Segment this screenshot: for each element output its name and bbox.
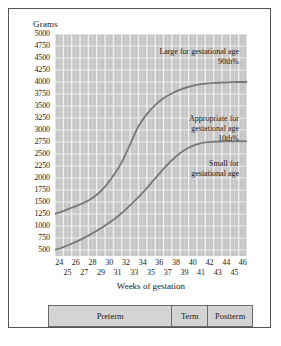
y-axis-tick-label: 3000 (34, 126, 50, 134)
annotation-line: Small for (124, 159, 239, 169)
y-axis-tick-label: 750 (38, 234, 50, 242)
y-axis-tick-label: 1000 (34, 222, 50, 230)
y-axis: 5000475045004250400037503500325030002750… (9, 34, 53, 256)
x-axis-tick-label: 31 (114, 268, 122, 277)
gestation-period-bar: PretermTermPostterm (48, 305, 253, 327)
annotation-line: 90th% (104, 57, 239, 67)
y-axis-tick-label: 2250 (34, 162, 50, 170)
x-axis-tick-label: 45 (230, 268, 238, 277)
x-axis-tick-label: 38 (172, 258, 180, 267)
x-axis-tick-label: 26 (72, 258, 80, 267)
y-axis-tick-label: 4750 (34, 42, 50, 50)
x-axis-tick-label: 42 (205, 258, 213, 267)
y-axis-tick-label: 1250 (34, 210, 50, 218)
x-axis-tick-label: 29 (97, 268, 105, 277)
annotation-large-for-gestational-age: Large for gestational age90th% (104, 47, 239, 67)
annotation-line: gestational age (119, 124, 239, 134)
y-axis-tick-label: 3250 (34, 114, 50, 122)
x-axis-tick-label: 24 (55, 258, 63, 267)
period-segment-preterm: Preterm (49, 306, 171, 326)
annotation-line: Large for gestational age (104, 47, 239, 57)
annotation-line: 10th% (119, 134, 239, 144)
y-axis-tick-label: 2000 (34, 174, 50, 182)
y-axis-tick-label: 500 (38, 246, 50, 254)
y-axis-tick-label: 4500 (34, 54, 50, 62)
chart-frame: Grams 5000475045004250400037503500325030… (8, 8, 271, 328)
annotation-small-for-gestational-age: Small forgestational age (124, 159, 239, 179)
x-axis-tick-label: 28 (89, 258, 97, 267)
y-axis-tick-label: 3750 (34, 90, 50, 98)
x-axis-tick-label: 32 (122, 258, 130, 267)
x-axis-tick-label: 39 (180, 268, 188, 277)
y-axis-tick-label: 4250 (34, 66, 50, 74)
y-axis-tick-label: 3500 (34, 102, 50, 110)
x-axis-tick-label: 30 (105, 258, 113, 267)
period-segment-term: Term (171, 306, 207, 326)
y-axis-title: Grams (33, 19, 58, 29)
annotation-line: Appropriate for (119, 114, 239, 124)
x-axis-tick-label: 44 (222, 258, 230, 267)
x-axis-tick-label: 41 (197, 268, 205, 277)
x-axis-tick-label: 36 (155, 258, 163, 267)
y-axis-tick-label: 4000 (34, 78, 50, 86)
x-axis-tick-label: 33 (130, 268, 138, 277)
y-axis-tick-label: 5000 (34, 30, 50, 38)
x-axis-tick-label: 34 (139, 258, 147, 267)
x-axis-tick-label: 37 (164, 268, 172, 277)
y-axis-tick-label: 1750 (34, 186, 50, 194)
annotation-line: gestational age (124, 169, 239, 179)
y-axis-tick-label: 2500 (34, 150, 50, 158)
x-axis-tick-label: 46 (239, 258, 247, 267)
x-axis-tick-label: 43 (214, 268, 222, 277)
y-axis-tick-label: 2750 (34, 138, 50, 146)
x-axis-tick-label: 40 (189, 258, 197, 267)
growth-curves-svg (55, 34, 247, 256)
x-axis-tick-label: 35 (147, 268, 155, 277)
x-axis-tick-label: 27 (80, 268, 88, 277)
x-axis-title: Weeks of gestation (55, 281, 247, 291)
y-axis-tick-label: 1500 (34, 198, 50, 206)
plot-area (55, 34, 247, 256)
annotation-appropriate-for-gestational-age: Appropriate forgestational age10th% (119, 114, 239, 144)
period-segment-postterm: Postterm (207, 306, 252, 326)
x-axis-tick-label: 25 (64, 268, 72, 277)
